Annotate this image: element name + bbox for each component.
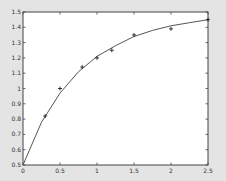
- y-tick-label: 0.6: [11, 146, 21, 153]
- y-tick-label: 0.9: [11, 100, 21, 107]
- x-tick-label: 2: [169, 167, 173, 174]
- y-tick-label: 0.7: [11, 130, 21, 137]
- y-tick-label: 0.8: [11, 115, 21, 122]
- chart-figure: 00.511.522.5 0.50.60.70.80.911.11.21.31.…: [0, 0, 226, 181]
- x-tick-label: 1.5: [129, 167, 139, 174]
- y-tick-label: 1.2: [11, 54, 21, 61]
- x-tick-label: 0.5: [55, 167, 65, 174]
- x-tick-label: 0: [21, 167, 25, 174]
- x-tick-label: 1: [95, 167, 99, 174]
- y-tick-label: 1.3: [11, 39, 21, 46]
- line-chart: 00.511.522.5 0.50.60.70.80.911.11.21.31.…: [0, 0, 226, 181]
- y-tick-label: 1: [17, 85, 21, 92]
- y-tick-label: 1.4: [11, 23, 21, 30]
- y-tick-label: 1.1: [11, 69, 21, 76]
- y-tick-label: 0.5: [11, 161, 21, 168]
- x-tick-label: 2.5: [203, 167, 213, 174]
- plot-area: [23, 12, 208, 165]
- y-tick-label: 1.5: [11, 8, 21, 15]
